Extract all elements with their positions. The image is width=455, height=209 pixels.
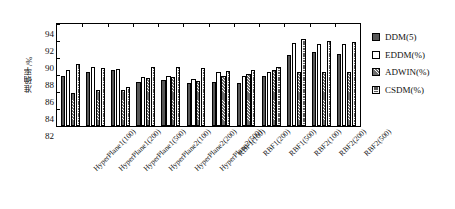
x-axis-tick-mark bbox=[209, 24, 210, 27]
bar bbox=[176, 67, 180, 126]
bar bbox=[312, 52, 316, 126]
legend-label-adwin: ADWIN(%) bbox=[385, 67, 429, 77]
bar-group bbox=[309, 24, 334, 126]
bar-group bbox=[334, 24, 359, 126]
bar bbox=[327, 41, 331, 126]
bar-group bbox=[108, 24, 133, 126]
y-axis-tick-mark bbox=[57, 24, 60, 25]
bar bbox=[136, 82, 140, 126]
bar-group bbox=[183, 24, 208, 126]
legend-swatch-ddm-icon bbox=[372, 33, 380, 41]
bar bbox=[272, 70, 276, 126]
legend-item-eddm: EDDM(%) bbox=[372, 50, 429, 60]
x-axis-tick-mark bbox=[183, 24, 184, 27]
x-axis-tick-mark bbox=[259, 24, 260, 27]
x-axis-tick-mark bbox=[108, 24, 109, 27]
bar bbox=[337, 54, 341, 126]
x-axis-labels: HyperPlane1(100)HyperPlane1(200)HyperPla… bbox=[56, 127, 361, 209]
bar bbox=[116, 69, 120, 126]
chart-legend: DDM(5) EDDM(%) ADWIN(%) CSDM(%) bbox=[372, 32, 429, 95]
bar bbox=[352, 42, 356, 126]
legend-swatch-eddm-icon bbox=[372, 51, 380, 59]
y-axis-tick-label: 88 bbox=[45, 80, 57, 90]
bar bbox=[91, 67, 95, 127]
bar bbox=[267, 72, 271, 126]
y-axis-tick-mark bbox=[57, 58, 60, 59]
legend-item-ddm: DDM(5) bbox=[372, 32, 429, 42]
legend-label-eddm: EDDM(%) bbox=[385, 50, 425, 60]
x-axis-tick-mark bbox=[158, 24, 159, 27]
bar bbox=[101, 68, 105, 126]
bar bbox=[246, 74, 250, 126]
bar bbox=[237, 83, 241, 126]
bar bbox=[342, 44, 346, 126]
y-axis-tick-mark bbox=[57, 41, 60, 42]
chart-figure: 准确率/% 82848688909294 HyperPlane1(100)Hyp… bbox=[0, 0, 455, 209]
bar bbox=[191, 79, 195, 126]
bar bbox=[166, 76, 170, 126]
bar bbox=[61, 76, 65, 126]
bar bbox=[287, 55, 291, 126]
bar-group bbox=[158, 24, 183, 126]
bar bbox=[121, 90, 125, 126]
legend-label-csdm: CSDM(%) bbox=[385, 85, 424, 95]
bar bbox=[317, 44, 321, 126]
bar bbox=[111, 70, 115, 126]
x-axis-tick-mark bbox=[284, 24, 285, 27]
bar bbox=[347, 72, 351, 126]
bar bbox=[141, 77, 145, 126]
bar bbox=[66, 70, 70, 126]
bar bbox=[226, 71, 230, 126]
bar bbox=[297, 72, 301, 126]
bar-group bbox=[284, 24, 309, 126]
bar bbox=[221, 76, 225, 126]
bar bbox=[151, 67, 155, 126]
bar bbox=[161, 80, 165, 126]
bar bbox=[201, 68, 205, 126]
y-axis-title: 准确率/% bbox=[22, 40, 36, 110]
legend-item-adwin: ADWIN(%) bbox=[372, 67, 429, 77]
bar bbox=[196, 81, 200, 126]
y-axis-tick-label: 92 bbox=[45, 46, 57, 56]
bar-group bbox=[83, 24, 108, 126]
legend-label-ddm: DDM(5) bbox=[385, 32, 417, 42]
x-axis-tick-mark bbox=[310, 24, 311, 27]
bar bbox=[86, 72, 90, 126]
x-axis-tick-mark bbox=[335, 24, 336, 27]
bar-group bbox=[234, 24, 259, 126]
bar bbox=[301, 39, 305, 126]
y-axis-tick-label: 90 bbox=[45, 63, 57, 73]
bar bbox=[251, 70, 255, 126]
bar bbox=[212, 82, 216, 126]
legend-swatch-csdm-icon bbox=[372, 86, 380, 94]
bar bbox=[187, 83, 191, 126]
bar bbox=[292, 43, 296, 126]
y-axis-tick-label: 84 bbox=[45, 114, 57, 124]
bar-group bbox=[259, 24, 284, 126]
bar bbox=[76, 64, 80, 126]
bar bbox=[171, 77, 175, 126]
bar bbox=[322, 72, 326, 126]
bar bbox=[216, 72, 220, 126]
bar-groups-container bbox=[57, 24, 360, 126]
x-axis-tick-mark bbox=[133, 24, 134, 27]
plot-area: 82848688909294 bbox=[56, 23, 361, 127]
bar bbox=[71, 93, 75, 126]
x-axis-tick-label: HyperPlane1(100) bbox=[91, 127, 137, 173]
y-axis-tick-label: 86 bbox=[45, 97, 57, 107]
legend-item-csdm: CSDM(%) bbox=[372, 85, 429, 95]
bar bbox=[262, 76, 266, 126]
y-axis-tick-label: 94 bbox=[45, 29, 57, 39]
x-axis-tick-mark bbox=[82, 24, 83, 27]
bar bbox=[96, 90, 100, 126]
bar bbox=[126, 87, 130, 126]
bar bbox=[146, 78, 150, 126]
bar bbox=[276, 67, 280, 126]
bar-group bbox=[208, 24, 233, 126]
legend-swatch-adwin-icon bbox=[372, 68, 380, 76]
bar-group bbox=[58, 24, 83, 126]
y-axis-tick-mark bbox=[57, 109, 60, 110]
y-axis-tick-mark bbox=[57, 75, 60, 76]
bar bbox=[242, 76, 246, 126]
x-axis-tick-mark bbox=[234, 24, 235, 27]
